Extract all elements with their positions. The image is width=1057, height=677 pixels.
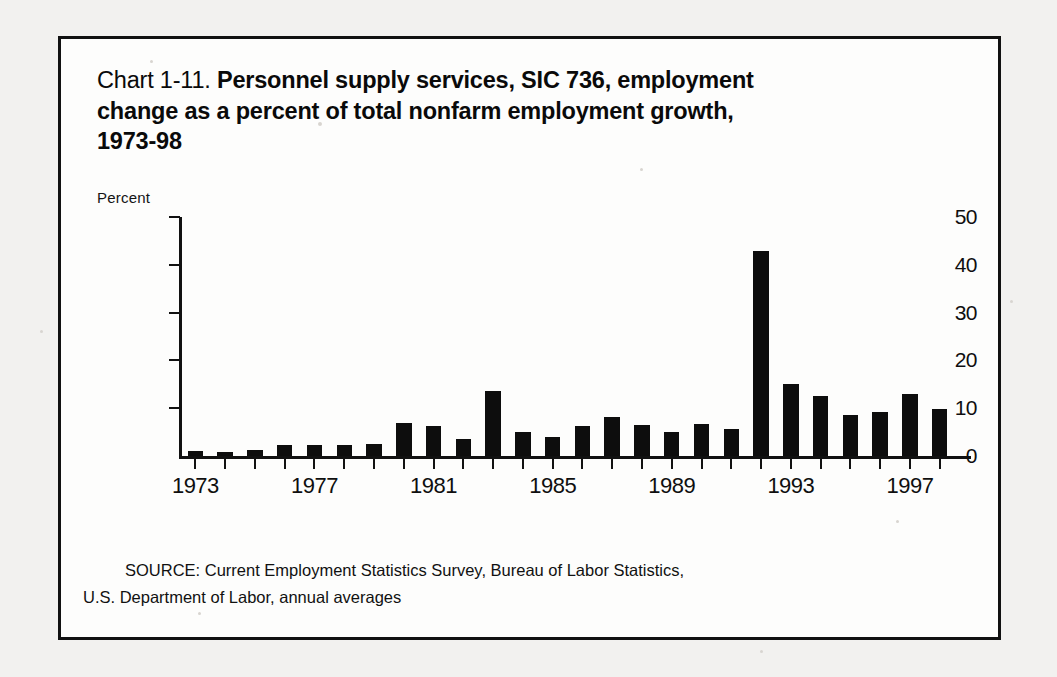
- y-tick-label: 40: [913, 253, 977, 277]
- scan-speckle: [1010, 300, 1013, 303]
- y-tick-mark: [169, 359, 180, 361]
- chart-title: Chart 1-11. Personnel supply services, S…: [97, 65, 967, 157]
- y-tick-mark: [169, 312, 180, 314]
- x-tick-mark: [403, 458, 405, 469]
- y-tick-label: 20: [913, 348, 977, 372]
- x-tick-mark: [224, 458, 226, 469]
- x-tick-label: 1993: [767, 473, 814, 499]
- y-tick-mark: [169, 407, 180, 409]
- chart-area: Percent 01020304050 19731977198119851989…: [97, 189, 977, 549]
- x-tick-mark: [194, 458, 196, 469]
- y-axis-title: Percent: [97, 189, 150, 206]
- bar: [426, 426, 441, 456]
- bar: [813, 396, 828, 456]
- x-tick-mark: [790, 458, 792, 469]
- plot-area: 01020304050 1973197719811985198919931997: [97, 217, 977, 527]
- x-tick-mark: [671, 458, 673, 469]
- scan-speckle: [40, 330, 43, 333]
- bar: [902, 394, 917, 456]
- x-tick-mark: [641, 458, 643, 469]
- bar: [337, 445, 352, 456]
- bar: [247, 450, 262, 456]
- x-tick-mark: [522, 458, 524, 469]
- bar: [783, 384, 798, 456]
- x-tick-mark: [611, 458, 613, 469]
- x-tick-mark: [343, 458, 345, 469]
- bar: [634, 425, 649, 456]
- source-note: SOURCE: Current Employment Statistics Su…: [83, 557, 963, 611]
- bar: [724, 429, 739, 456]
- bar: [456, 439, 471, 456]
- x-tick-mark: [730, 458, 732, 469]
- bar: [396, 423, 411, 456]
- bar: [217, 452, 232, 456]
- bar: [515, 432, 530, 456]
- page-background: Chart 1-11. Personnel supply services, S…: [0, 0, 1057, 677]
- x-tick-label: 1997: [886, 473, 933, 499]
- x-tick-label: 1977: [291, 473, 338, 499]
- x-tick-mark: [701, 458, 703, 469]
- x-tick-label: 1973: [172, 473, 219, 499]
- scan-speckle: [150, 60, 153, 63]
- bar: [485, 391, 500, 456]
- x-tick-mark: [284, 458, 286, 469]
- bar: [843, 415, 858, 456]
- x-tick-mark: [433, 458, 435, 469]
- y-tick-mark: [169, 264, 180, 266]
- scan-speckle: [318, 122, 322, 126]
- figure-frame: Chart 1-11. Personnel supply services, S…: [58, 36, 1001, 640]
- scan-speckle: [896, 520, 899, 523]
- x-tick-mark: [939, 458, 941, 469]
- scan-speckle: [198, 612, 201, 615]
- x-tick-label: 1989: [648, 473, 695, 499]
- bar: [366, 444, 381, 456]
- scan-speckle: [760, 650, 763, 653]
- bar: [664, 432, 679, 456]
- bar: [604, 417, 619, 456]
- x-tick-mark: [909, 458, 911, 469]
- y-tick-label: 50: [913, 205, 977, 229]
- bar: [932, 409, 947, 456]
- y-tick-label: 30: [913, 301, 977, 325]
- x-tick-label: 1981: [410, 473, 457, 499]
- y-axis-line: [179, 217, 182, 458]
- source-line-1: SOURCE: Current Employment Statistics Su…: [83, 557, 963, 584]
- y-tick-mark: [169, 216, 180, 218]
- x-tick-mark: [313, 458, 315, 469]
- scan-speckle: [640, 168, 643, 171]
- x-axis-line: [179, 456, 971, 459]
- x-tick-label: 1985: [529, 473, 576, 499]
- bar: [188, 451, 203, 456]
- bar: [753, 251, 768, 456]
- chart-title-line-2: change as a percent of total nonfarm emp…: [97, 96, 967, 127]
- x-tick-mark: [760, 458, 762, 469]
- bar: [545, 437, 560, 456]
- chart-title-line-1: Chart 1-11. Personnel supply services, S…: [97, 65, 967, 96]
- bar: [307, 445, 322, 456]
- source-line-2: U.S. Department of Labor, annual average…: [83, 584, 963, 611]
- x-tick-mark: [581, 458, 583, 469]
- bar: [694, 424, 709, 456]
- chart-title-main: Personnel supply services, SIC 736, empl…: [217, 67, 754, 93]
- chart-title-prefix: Chart 1-11.: [97, 67, 217, 93]
- x-tick-mark: [492, 458, 494, 469]
- x-tick-mark: [849, 458, 851, 469]
- bar: [575, 426, 590, 456]
- x-tick-mark: [552, 458, 554, 469]
- x-tick-mark: [254, 458, 256, 469]
- x-tick-mark: [462, 458, 464, 469]
- x-tick-mark: [879, 458, 881, 469]
- x-tick-mark: [820, 458, 822, 469]
- bar: [277, 445, 292, 456]
- bar: [872, 412, 887, 456]
- chart-title-line-3: 1973-98: [97, 126, 967, 157]
- x-tick-mark: [373, 458, 375, 469]
